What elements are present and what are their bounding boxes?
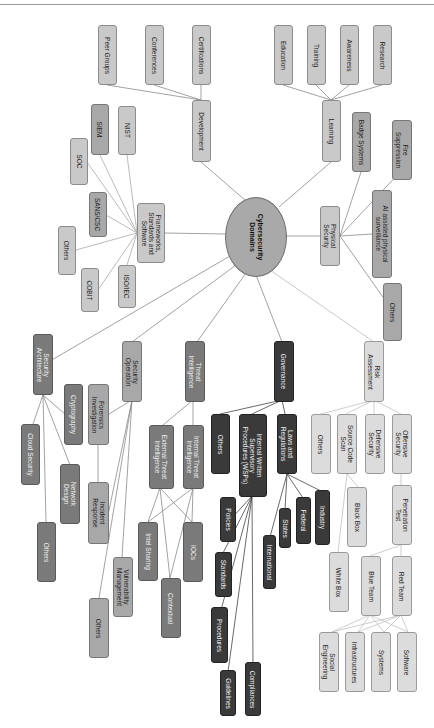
node-defensive-security: Defensive Security xyxy=(365,414,385,474)
node-label: Frameworks, Standards and Software xyxy=(141,212,162,254)
node-black-box: Black Box xyxy=(347,487,367,547)
node-label: Defensive Security xyxy=(368,430,382,459)
node-penetration-test: Penetration Test xyxy=(392,485,412,545)
node-label: IOCs xyxy=(190,545,197,560)
node-label: Red Team xyxy=(399,571,406,601)
node-label: External Threat Intelligence xyxy=(155,435,169,479)
node-forensics-investigation: Forensics Investigation xyxy=(88,384,109,445)
node-label: Procedures xyxy=(216,618,223,651)
node-label: Infrastructures xyxy=(352,641,359,683)
node-label: Peer Groups xyxy=(104,37,111,74)
node-label: Others xyxy=(96,618,103,638)
node-sans-csc: SANS/CSC xyxy=(89,192,107,237)
node-vulnerability-management: Vulnerability Management xyxy=(113,557,133,617)
node-frameworks: Frameworks, Standards and Software xyxy=(137,203,165,263)
node-compliances: Compliances xyxy=(245,662,261,716)
node-label: Certifications xyxy=(198,36,205,74)
node-label: Intel Sharing xyxy=(145,533,152,570)
node-label: AI assisted physical surveillance xyxy=(375,205,389,262)
node-label: Others xyxy=(64,241,71,261)
node-label: COBIT xyxy=(87,280,94,300)
node-label: Others xyxy=(389,302,396,322)
node-threat-intelligence: Threat Intelligence xyxy=(185,341,205,402)
node-procedures: Procedures xyxy=(211,607,228,663)
node-label: White Box xyxy=(336,567,343,597)
node-ai-surveillance: AI assisted physical surveillance xyxy=(372,190,392,278)
node-label: International xyxy=(266,544,273,580)
node-label: Black Box xyxy=(354,503,361,532)
node-operation-others: Others xyxy=(89,598,109,658)
node-label: Federal xyxy=(300,509,307,531)
node-network-design: Network Design xyxy=(60,464,80,524)
node-label: Awareness xyxy=(346,39,353,71)
node-social-engineering: Social Engineering xyxy=(319,632,339,692)
center-node-cybersecurity-domains: Cybersecurity Domains xyxy=(225,197,287,277)
node-governance-others: Others xyxy=(211,414,230,474)
node-red-team: Red Team xyxy=(392,556,412,616)
node-label: Security Operation xyxy=(125,357,139,386)
node-label: Offensive Security xyxy=(395,430,409,457)
node-label: Industry xyxy=(319,506,326,529)
node-label: Software xyxy=(404,649,411,675)
node-contextual: Contextual xyxy=(161,578,181,638)
node-incident-response: Incident Response xyxy=(88,482,109,544)
node-label: Source Code Scan xyxy=(340,425,354,463)
node-infrastructures: Infrastructures xyxy=(345,632,365,692)
node-badge-systems: Badge Systems xyxy=(352,112,371,172)
node-label: Conferences xyxy=(151,37,158,74)
node-label: Governance xyxy=(281,354,288,389)
node-laws-and-regulations: Laws and Regulations xyxy=(277,414,297,474)
node-label: Laws and Regulations xyxy=(280,427,294,461)
node-cloud-security: Cloud Security xyxy=(21,424,40,485)
node-label: Internal Threat Intelligence xyxy=(187,436,201,478)
node-cryptography: Cryptography xyxy=(64,384,83,445)
node-label: Others xyxy=(217,434,224,454)
node-label: Systems xyxy=(378,650,385,675)
node-label: Social Engineering xyxy=(322,645,336,680)
node-label: Research xyxy=(379,41,386,69)
node-label: Forensics Investigation xyxy=(92,396,106,433)
node-states: States xyxy=(279,508,291,548)
node-label: Risk Assessment xyxy=(367,354,381,389)
node-training: Training xyxy=(307,25,326,85)
node-label: Blue Team xyxy=(368,571,375,602)
node-label: SIEM xyxy=(97,122,104,138)
node-architecture-others: Others xyxy=(37,522,56,582)
node-label: Penetration Test xyxy=(395,498,409,531)
node-label: Development xyxy=(198,112,205,150)
center-label: Cybersecurity Domains xyxy=(248,214,264,261)
node-label: Others xyxy=(318,434,325,454)
node-governance: Governance xyxy=(274,341,294,402)
node-fire-suppression: Fire Suppression xyxy=(392,120,412,180)
node-federal: Federal xyxy=(296,497,311,544)
node-iso-iec: ISO/IEC xyxy=(118,265,136,308)
node-research: Research xyxy=(373,25,392,85)
node-education: Education xyxy=(274,25,293,85)
node-soc: SOC xyxy=(70,138,88,185)
node-label: Training xyxy=(313,43,320,66)
node-label: SOC xyxy=(76,154,83,168)
node-source-code-scan: Source Code Scan xyxy=(337,414,357,474)
node-external-threat-intelligence: External Threat Intelligence xyxy=(149,425,174,489)
node-frameworks-others: Others xyxy=(58,226,76,275)
node-label: Badge Systems xyxy=(358,119,365,165)
node-physical-others: Others xyxy=(383,283,402,341)
node-guidelines: Guidelines xyxy=(220,670,236,716)
node-label: Vulnerability Management xyxy=(116,568,130,606)
node-label: Guidelines xyxy=(225,678,232,709)
node-industry: Industry xyxy=(315,490,330,545)
node-label: Education xyxy=(280,41,287,70)
node-label: Security Architecture xyxy=(36,347,50,382)
node-international: International xyxy=(263,535,276,589)
node-label: Learning xyxy=(328,118,335,143)
node-security-architecture: Security Architecture xyxy=(33,334,53,395)
node-label: Compliances xyxy=(250,670,257,708)
node-certifications: Certifications xyxy=(192,25,211,85)
node-standards: Standards xyxy=(215,552,232,597)
node-label: Internal Written Supervisory Procedures … xyxy=(243,427,264,484)
node-label: ISO/IEC xyxy=(124,275,131,299)
node-risk-others: Others xyxy=(311,414,331,474)
node-development: Development xyxy=(192,100,211,162)
node-intel-sharing: Intel Sharing xyxy=(138,522,158,581)
node-cobit: COBIT xyxy=(81,268,99,312)
